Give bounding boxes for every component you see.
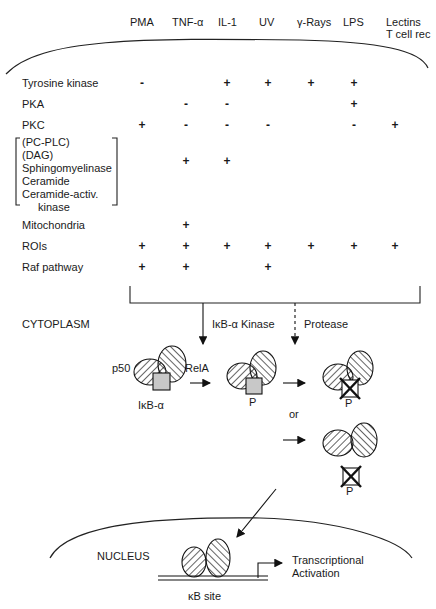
- row-label-lipid-group: (PC-PLC) (DAG) Sphingomyelinase Ceramide…: [22, 136, 112, 214]
- effect-sign: +: [261, 260, 275, 274]
- effect-sign: +: [304, 76, 318, 90]
- left-bracket: [16, 138, 20, 205]
- dna-bound-nfkb: [182, 539, 230, 577]
- phospho-label-2: P: [345, 397, 352, 409]
- effect-sign: +: [261, 76, 275, 90]
- stimulus-pma: PMA: [130, 16, 154, 28]
- translocation-arrow: [237, 489, 276, 537]
- effect-sign: +: [135, 118, 149, 132]
- ikb-kinase-label: IκB-α Kinase: [212, 318, 275, 330]
- cell-membrane-arc: [6, 39, 428, 74]
- effect-sign: +: [261, 239, 275, 253]
- label-ceramide: Ceramide: [22, 175, 112, 188]
- effect-sign: +: [220, 154, 234, 168]
- effect-sign: +: [388, 239, 402, 253]
- transcription-label-2: Activation: [292, 567, 340, 579]
- row-label-tyrosine-kinase: Tyrosine kinase: [22, 77, 98, 89]
- ikb-alpha-label: IκB-α: [138, 399, 164, 411]
- convergence-bracket: [130, 286, 420, 303]
- effect-sign: -: [179, 97, 193, 111]
- effect-sign: +: [179, 239, 193, 253]
- stimulus-lectins: Lectins: [386, 16, 421, 28]
- effect-sign: +: [220, 76, 234, 90]
- label-kinase: kinase: [22, 201, 112, 214]
- effect-sign: +: [347, 76, 361, 90]
- diagram-canvas: [0, 0, 436, 609]
- row-label-rois: ROIs: [22, 240, 47, 252]
- row-label-mitochondria: Mitochondria: [22, 219, 85, 231]
- effect-sign: +: [135, 239, 149, 253]
- p50-label: p50: [112, 362, 130, 374]
- degraded-ikb: [341, 466, 361, 487]
- row-label-pka: PKA: [22, 98, 44, 110]
- effect-sign: +: [179, 154, 193, 168]
- protease-label: Protease: [304, 318, 348, 330]
- effect-sign: +: [304, 239, 318, 253]
- effect-sign: +: [135, 260, 149, 274]
- stimulus-gamma-rays: γ-Rays: [297, 16, 331, 28]
- phosphorylated-complex: [227, 351, 276, 394]
- effect-sign: +: [347, 97, 361, 111]
- transcription-label-1: Transcriptional: [292, 554, 364, 566]
- label-sphingomyelinase: Sphingomyelinase: [22, 162, 112, 175]
- nfkb-ikb-complex: [134, 346, 186, 390]
- effect-sign: -: [347, 118, 361, 132]
- effect-sign: +: [388, 118, 402, 132]
- or-label: or: [289, 408, 299, 420]
- free-nfkb: [323, 423, 377, 457]
- row-label-pkc: PKC: [22, 119, 45, 131]
- row-label-raf-pathway: Raf pathway: [22, 261, 83, 273]
- effect-sign: -: [261, 118, 275, 132]
- nucleus-label: NUCLEUS: [97, 550, 150, 562]
- label-ceramide-activ: Ceramide-activ.: [22, 188, 112, 201]
- effect-sign: +: [179, 218, 193, 232]
- label-dag: (DAG): [22, 149, 112, 162]
- phospho-label-3: P: [346, 485, 353, 497]
- phospho-label-1: P: [249, 396, 256, 408]
- stimulus-il1: IL-1: [218, 16, 237, 28]
- effect-sign: -: [220, 97, 234, 111]
- degraded-complex: [323, 351, 373, 399]
- effect-sign: +: [179, 260, 193, 274]
- effect-sign: -: [135, 76, 149, 90]
- stimulus-tnf-alpha: TNF-α: [172, 16, 203, 28]
- rela-label: RelA: [185, 362, 209, 374]
- stimulus-uv: UV: [259, 16, 274, 28]
- stimulus-lps: LPS: [343, 16, 364, 28]
- kb-site-label: κB site: [188, 590, 221, 602]
- right-bracket: [112, 138, 117, 205]
- label-pc-plc: (PC-PLC): [22, 136, 112, 149]
- effect-sign: -: [220, 118, 234, 132]
- cytoplasm-label: CYTOPLASM: [22, 318, 90, 330]
- effect-sign: +: [347, 239, 361, 253]
- stimulus-tcell-receptor: T cell rec: [386, 28, 430, 40]
- effect-sign: +: [220, 239, 234, 253]
- effect-sign: -: [179, 118, 193, 132]
